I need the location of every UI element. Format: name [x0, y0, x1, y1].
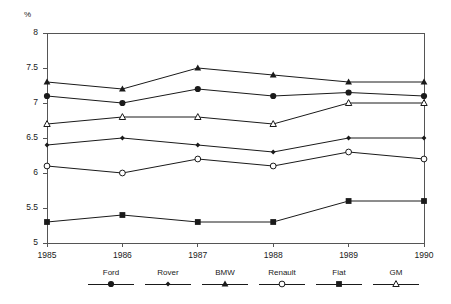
- legend-swatch-small-filled-diamond-icon: [137, 279, 199, 289]
- data-point-marker-filled-circle: [421, 93, 427, 99]
- y-axis-tick-label: 8: [16, 28, 38, 37]
- data-point-marker-filled-circle: [119, 100, 125, 106]
- data-point-marker-filled-circle: [270, 93, 276, 99]
- data-point-marker-open-circle: [195, 156, 201, 162]
- data-point-marker-open-circle: [44, 163, 50, 169]
- data-point-marker-small-filled-diamond: [422, 136, 427, 141]
- data-point-marker-filled-circle: [346, 89, 352, 95]
- legend-item-renault[interactable]: Renault: [251, 268, 313, 289]
- legend-swatch-open-circle-icon: [251, 279, 313, 289]
- chart-legend: FordRoverBMWRenaultFiatGM: [0, 268, 451, 302]
- x-axis-tick-label: 1988: [253, 250, 293, 260]
- y-axis-ticks: [43, 33, 47, 243]
- y-axis-tick-label: 6: [16, 168, 38, 177]
- legend-marker-icon: [161, 279, 175, 291]
- data-point-marker-filled-circle: [195, 86, 201, 92]
- data-point-marker-small-filled-diamond: [195, 143, 200, 148]
- legend-item-label: Ford: [80, 268, 142, 278]
- legend-swatch-filled-square-icon: [308, 279, 370, 289]
- x-axis-tick-label: 1986: [102, 250, 142, 260]
- plot-area: [0, 0, 451, 304]
- legend-item-label: GM: [365, 268, 427, 278]
- data-point-marker-filled-triangle: [222, 280, 229, 286]
- series-gm: [44, 100, 427, 127]
- legend-marker-icon: [104, 279, 118, 291]
- legend-item-gm[interactable]: GM: [365, 268, 427, 289]
- data-point-marker-filled-square: [421, 198, 427, 204]
- legend-swatch-filled-triangle-icon: [194, 279, 256, 289]
- data-point-marker-filled-square: [346, 198, 352, 204]
- series-renault: [44, 149, 427, 176]
- legend-marker-icon: [389, 279, 403, 291]
- series-fiat: [44, 198, 427, 225]
- legend-item-fiat[interactable]: Fiat: [308, 268, 370, 289]
- legend-swatch-filled-circle-icon: [80, 279, 142, 289]
- data-point-marker-open-circle: [421, 156, 427, 162]
- series-rover: [45, 136, 427, 155]
- data-point-marker-filled-square: [120, 212, 126, 218]
- data-point-marker-filled-square: [270, 219, 276, 225]
- legend-item-label: BMW: [194, 268, 256, 278]
- y-axis-tick-label: 5: [16, 238, 38, 247]
- legend-swatch-open-triangle-icon: [365, 279, 427, 289]
- x-axis-ticks: [47, 243, 424, 247]
- y-axis-tick-label: 6.5: [16, 133, 38, 142]
- x-axis-tick-label: 1989: [329, 250, 369, 260]
- legend-item-label: Renault: [251, 268, 313, 278]
- data-point-marker-open-circle: [346, 149, 352, 155]
- data-point-marker-filled-square: [195, 219, 201, 225]
- legend-item-label: Rover: [137, 268, 199, 278]
- data-point-marker-filled-triangle: [44, 78, 51, 84]
- legend-item-label: Fiat: [308, 268, 370, 278]
- x-axis-tick-label: 1985: [27, 250, 67, 260]
- data-point-marker-filled-triangle: [194, 64, 201, 70]
- legend-item-bmw[interactable]: BMW: [194, 268, 256, 289]
- data-point-marker-small-filled-diamond: [45, 143, 50, 148]
- data-point-marker-small-filled-diamond: [346, 136, 351, 141]
- y-axis-tick-label: 7.5: [16, 63, 38, 72]
- data-point-marker-open-circle: [279, 281, 285, 287]
- data-point-marker-filled-square: [44, 219, 50, 225]
- series-bmw: [44, 64, 428, 91]
- x-axis-tick-label: 1990: [404, 250, 444, 260]
- line-chart: % 55.566.577.58 198519861987198819891990…: [0, 0, 451, 304]
- legend-marker-icon: [332, 279, 346, 291]
- legend-item-rover[interactable]: Rover: [137, 268, 199, 289]
- x-axis-tick-label: 1987: [178, 250, 218, 260]
- data-point-marker-open-circle: [120, 170, 126, 176]
- y-axis-tick-label: 7: [16, 98, 38, 107]
- data-point-marker-open-circle: [270, 163, 276, 169]
- data-point-marker-filled-circle: [44, 93, 50, 99]
- data-point-marker-open-triangle: [393, 281, 399, 287]
- data-point-marker-small-filled-diamond: [271, 150, 276, 155]
- data-point-marker-filled-square: [336, 281, 342, 287]
- data-point-marker-filled-circle: [108, 281, 114, 287]
- data-point-marker-small-filled-diamond: [166, 282, 171, 287]
- y-axis-tick-label: 5.5: [16, 203, 38, 212]
- legend-marker-icon: [275, 279, 289, 291]
- data-point-marker-small-filled-diamond: [120, 136, 125, 141]
- legend-item-ford[interactable]: Ford: [80, 268, 142, 289]
- legend-marker-icon: [218, 279, 232, 291]
